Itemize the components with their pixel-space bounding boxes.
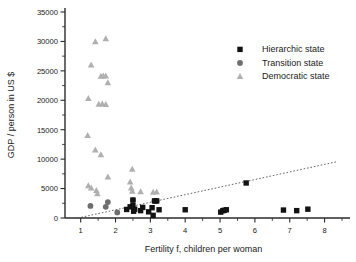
- x-tick-label: 8: [322, 226, 326, 235]
- data-point-triangle: [129, 166, 136, 172]
- data-point-triangle: [128, 184, 135, 190]
- y-tick-label: 10000: [37, 155, 58, 164]
- data-point-circle: [88, 203, 94, 209]
- y-tick-label: 5000: [41, 184, 58, 193]
- x-tick-label: 4: [183, 226, 187, 235]
- data-point-triangle: [105, 79, 112, 85]
- data-point-triangle: [85, 95, 92, 101]
- data-point-triangle: [105, 174, 112, 180]
- data-point-square: [132, 206, 137, 211]
- data-point-square: [281, 207, 286, 212]
- data-point-triangle: [98, 151, 105, 157]
- x-axis-label: Fertility f, children per woman: [145, 244, 263, 254]
- x-tick-label: 2: [113, 226, 117, 235]
- data-point-square: [154, 198, 159, 203]
- data-point-square: [224, 207, 229, 212]
- x-tick-label: 5: [218, 226, 222, 235]
- data-point-triangle: [102, 35, 109, 41]
- chart-canvas: 0500010000150002000025000300003500012345…: [0, 0, 356, 262]
- y-tick-label: 0: [54, 214, 58, 223]
- legend-marker-triangle: [237, 73, 244, 79]
- y-tick-label: 15000: [37, 126, 58, 135]
- legend-label: Hierarchic state: [262, 44, 325, 54]
- data-point-square: [150, 213, 155, 218]
- data-point-square: [130, 197, 135, 202]
- legend-label: Democratic state: [262, 71, 330, 81]
- data-point-triangle: [137, 188, 144, 194]
- data-point-triangle: [127, 179, 134, 185]
- legend-marker-square: [237, 47, 242, 52]
- y-tick-label: 25000: [37, 67, 58, 76]
- y-axis-label: GDP / person in US $: [6, 72, 16, 158]
- data-point-triangle: [92, 146, 99, 152]
- data-point-circle: [105, 199, 111, 205]
- data-point-square: [149, 205, 154, 210]
- data-point-square: [294, 208, 299, 213]
- y-tick-label: 30000: [37, 37, 58, 46]
- data-point-square: [140, 205, 145, 210]
- data-point-triangle: [88, 61, 95, 67]
- data-point-circle: [114, 210, 120, 216]
- scatter-chart: 0500010000150002000025000300003500012345…: [0, 0, 356, 262]
- data-point-square: [305, 206, 310, 211]
- legend-marker-circle: [237, 60, 243, 66]
- y-tick-label: 20000: [37, 96, 58, 105]
- x-tick-label: 7: [288, 226, 292, 235]
- data-point-square: [243, 180, 248, 185]
- x-tick-label: 1: [79, 226, 83, 235]
- data-point-square: [156, 207, 161, 212]
- x-tick-label: 3: [148, 226, 152, 235]
- y-tick-label: 35000: [37, 8, 58, 17]
- data-point-square: [183, 207, 188, 212]
- legend-label: Transition state: [262, 58, 323, 68]
- data-point-triangle: [92, 38, 99, 44]
- data-point-triangle: [84, 132, 91, 138]
- x-tick-label: 6: [253, 226, 257, 235]
